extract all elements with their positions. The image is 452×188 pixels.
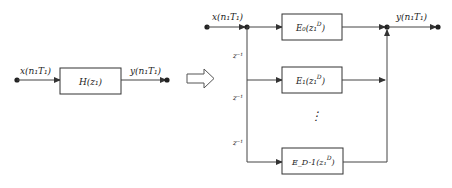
delay-label-2: z⁻¹	[232, 94, 243, 102]
left-diagram: x(n₁T₁) H(z₁) y(n₁T₁)	[14, 66, 169, 94]
output-label: y(n₁T₁)	[129, 66, 162, 76]
ellipsis: ⋮	[310, 109, 322, 123]
right-output-node	[435, 24, 440, 29]
delay-label-1: z⁻¹	[232, 52, 243, 60]
h-block-label: H(z₁)	[78, 77, 103, 87]
right-input-label: x(n₁T₁)	[212, 12, 244, 22]
output-node	[164, 77, 169, 82]
delay-label-3: z⁻¹	[232, 139, 243, 147]
right-output-label: y(n₁T₁)	[395, 12, 428, 22]
branch-d1-out	[343, 30, 387, 162]
input-label: x(n₁T₁)	[20, 66, 52, 76]
polyphase-diagram: x(n₁T₁) H(z₁) y(n₁T₁) x(n₁T₁) z⁻¹ z⁻¹ z⁻…	[0, 0, 452, 188]
transform-arrow-icon	[187, 69, 214, 88]
right-diagram: x(n₁T₁) z⁻¹ z⁻¹ z⁻¹ E₀(z₁D) E₁(z₁D) ⋮ E_…	[204, 12, 440, 174]
